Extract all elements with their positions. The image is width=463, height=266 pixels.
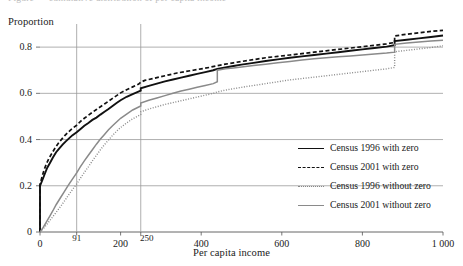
legend-line-swatch-icon <box>298 143 324 153</box>
legend-item-census-2001-with-zero: Census 2001 with zero <box>298 157 431 176</box>
x-tick-label: 250 <box>127 233 167 243</box>
legend-item-census-1996-with-zero: Census 1996 with zero <box>298 138 431 157</box>
x-axis-title: Per capita income <box>0 247 463 258</box>
y-tick-label: 0.2 <box>6 180 32 191</box>
legend-item-label: Census 2001 without zero <box>330 200 431 210</box>
y-tick-label: 0.8 <box>6 41 32 52</box>
legend-item-census-2001-without-zero: Census 2001 without zero <box>298 195 431 214</box>
x-tick-label: 91 <box>57 233 97 243</box>
legend-item-label: Census 2001 with zero <box>330 162 419 172</box>
y-tick-label: 0.4 <box>6 134 32 145</box>
legend-item-label: Census 1996 with zero <box>330 143 419 153</box>
chart-plot-area <box>0 0 463 266</box>
legend-line-swatch-icon <box>298 181 324 191</box>
legend-line-swatch-icon <box>298 162 324 172</box>
legend-item-label: Census 1996 without zero <box>330 181 431 191</box>
chart-legend: Census 1996 with zeroCensus 2001 with ze… <box>298 138 431 214</box>
legend-line-swatch-icon <box>298 200 324 210</box>
y-tick-label: 0.6 <box>6 87 32 98</box>
legend-item-census-1996-without-zero: Census 1996 without zero <box>298 176 431 195</box>
y-tick-label: 0 <box>6 226 32 237</box>
